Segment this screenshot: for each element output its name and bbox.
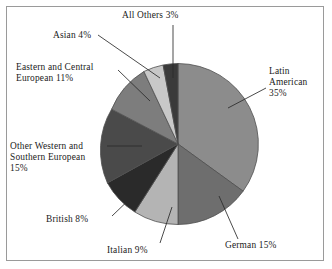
pie-slices xyxy=(100,64,258,225)
pie-label-all-others: All Others 3% xyxy=(122,10,200,21)
pie-label-italian: Italian 9% xyxy=(107,245,169,256)
pie-label-british: British 8% xyxy=(46,214,112,225)
pie-label-other-western-southern-european: Other Western and Southern European 15% xyxy=(10,141,106,175)
pie-label-latin-american: Latin American 35% xyxy=(269,66,329,100)
pie-chart-svg xyxy=(0,0,332,269)
pie-label-eastern-central-european: Eastern and Central European 11% xyxy=(16,62,116,84)
pie-label-german: German 15% xyxy=(225,240,297,251)
pie-label-asian: Asian 4% xyxy=(53,30,107,41)
pie-chart-figure: Latin American 35% German 15% Italian 9%… xyxy=(0,0,332,269)
